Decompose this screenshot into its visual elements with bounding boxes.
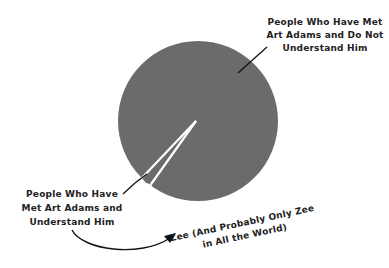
svg-text:People Who Have: People Who Have	[26, 189, 118, 199]
pie-chart: People Who Have Met Art Adams and Do Not…	[0, 0, 389, 268]
svg-text:People Who Have Met: People Who Have Met	[267, 17, 383, 27]
label-understand: People Who Have Met Art Adams and Unders…	[21, 189, 122, 227]
arrow-curve	[72, 230, 170, 250]
leader-line-understand	[123, 183, 135, 194]
svg-text:Met Art Adams and: Met Art Adams and	[21, 203, 122, 213]
label-not-understand: People Who Have Met Art Adams and Do Not…	[266, 17, 384, 53]
curved-arrow	[72, 230, 176, 250]
label-zee: Zee (And Probably Only Zee in All the Wo…	[169, 203, 318, 256]
svg-text:Understand Him: Understand Him	[282, 43, 367, 53]
svg-text:Art Adams and Do Not: Art Adams and Do Not	[266, 30, 384, 40]
svg-text:Understand Him: Understand Him	[29, 217, 114, 227]
